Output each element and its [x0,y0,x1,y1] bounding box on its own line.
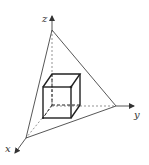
y-axis-label: y [133,109,140,120]
z-axis-label: z [41,13,48,24]
diagram-canvas: z y x [0,0,149,165]
cube [42,74,80,119]
coordinate-axes [15,16,134,153]
x-axis [15,138,26,153]
cube-top-edges [43,74,80,87]
cube-hidden-edges [43,74,80,118]
x-axis-label: x [5,143,11,154]
cube-vertex-dot [70,86,73,89]
cube-front-face [43,87,71,118]
cube-origin-dot [42,117,44,119]
